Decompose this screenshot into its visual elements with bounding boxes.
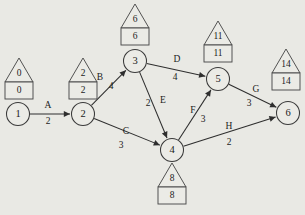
latest-time-node-6: 14	[281, 76, 291, 86]
edge-name-a: A	[45, 100, 52, 110]
earliest-time-node-2: 2	[81, 68, 86, 78]
edge-duration-a: 2	[46, 116, 51, 126]
node-3[interactable]: 3	[124, 50, 147, 73]
latest-time-node-5: 11	[213, 48, 222, 58]
node-4[interactable]: 4	[161, 139, 184, 162]
network-diagram: 0022668811111414 123456 A2B4C3D4E2F3G3H2	[0, 0, 305, 215]
edge-name-f: F	[190, 105, 195, 115]
earliest-time-node-6: 14	[281, 59, 291, 69]
node-label-2: 2	[80, 108, 85, 119]
edge-name-g: G	[253, 84, 260, 94]
edge-name-h: H	[226, 121, 233, 131]
latest-time-node-4: 8	[170, 190, 175, 200]
node-label-4: 4	[169, 144, 175, 155]
node-label-1: 1	[15, 108, 20, 119]
latest-time-node-1: 0	[17, 85, 22, 95]
earliest-time-node-1: 0	[17, 68, 22, 78]
node-6[interactable]: 6	[277, 102, 300, 125]
edge-duration-e: 2	[146, 98, 151, 108]
edge-duration-h: 2	[227, 137, 232, 147]
earliest-time-node-5: 11	[213, 31, 222, 41]
earliest-time-node-3: 6	[133, 14, 138, 24]
node-1[interactable]: 1	[7, 103, 30, 126]
node-label-5: 5	[215, 73, 220, 84]
edge-duration-c: 3	[119, 140, 124, 150]
diagram-canvas: 0022668811111414 123456 A2B4C3D4E2F3G3H2	[0, 0, 305, 215]
edge-name-b: B	[97, 72, 103, 82]
node-label-3: 3	[132, 55, 137, 66]
latest-time-node-2: 2	[81, 85, 86, 95]
edge-duration-b: 4	[109, 81, 114, 91]
node-2[interactable]: 2	[72, 103, 95, 126]
edge-name-c: C	[123, 126, 129, 136]
node-5[interactable]: 5	[207, 68, 230, 91]
edge-duration-g: 3	[247, 98, 252, 108]
latest-time-node-3: 6	[133, 31, 138, 41]
node-label-6: 6	[285, 107, 290, 118]
edge-duration-f: 3	[201, 114, 206, 124]
edge-name-d: D	[174, 54, 181, 64]
edge-name-e: E	[160, 95, 166, 105]
earliest-time-node-4: 8	[170, 173, 175, 183]
edge-duration-d: 4	[173, 72, 178, 82]
